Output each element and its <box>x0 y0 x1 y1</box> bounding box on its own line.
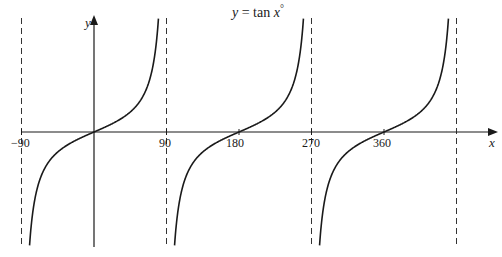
tick-label-180: 180 <box>226 136 244 150</box>
y-axis-arrow-icon <box>90 15 98 25</box>
chart-title: y = tan x° <box>230 3 284 21</box>
tick-label-90: 90 <box>159 136 171 150</box>
x-axis-label: x <box>488 135 495 150</box>
tick-label-270: 270 <box>302 136 320 150</box>
tick-label-neg90: −90 <box>11 136 30 150</box>
tangent-chart: y = tan x° y x −90 90 180 270 360 <box>0 0 502 257</box>
tick-label-360: 360 <box>373 136 391 150</box>
y-axis-label: y <box>83 15 91 30</box>
